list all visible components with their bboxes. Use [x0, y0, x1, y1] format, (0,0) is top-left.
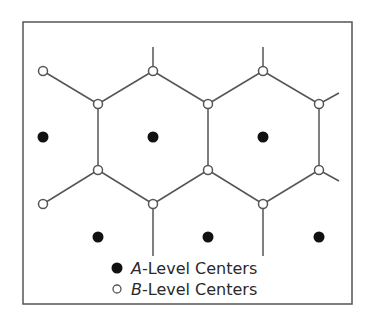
b-center-marker — [149, 67, 158, 76]
b-center-marker — [94, 166, 103, 175]
a-center-marker — [258, 132, 269, 143]
legend-a-marker-icon — [112, 263, 123, 274]
b-center-marker — [204, 100, 213, 109]
b-center-marker — [204, 166, 213, 175]
legend: A-Level Centers B-Level Centers — [112, 259, 258, 299]
hexagonal-lattice-diagram: A-Level Centers B-Level Centers — [0, 0, 371, 320]
legend-b-marker-icon — [113, 285, 121, 293]
a-center-marker — [38, 132, 49, 143]
legend-a-label: A-Level Centers — [130, 259, 257, 278]
hexagon-edges — [43, 47, 339, 256]
b-center-marker — [259, 67, 268, 76]
b-center-marker — [315, 100, 324, 109]
a-center-marker — [93, 232, 104, 243]
b-center-marker — [94, 100, 103, 109]
a-center-marker — [203, 232, 214, 243]
b-center-marker — [149, 200, 158, 209]
b-center-marker — [39, 200, 48, 209]
b-center-marker — [259, 200, 268, 209]
a-center-marker — [148, 132, 159, 143]
a-center-marker — [314, 232, 325, 243]
b-center-marker — [39, 67, 48, 76]
b-center-marker — [315, 166, 324, 175]
legend-b-label: B-Level Centers — [131, 280, 257, 299]
